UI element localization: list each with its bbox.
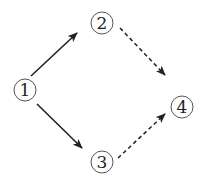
node-3: 3: [91, 151, 113, 173]
node-3-label: 3: [97, 152, 108, 172]
node-4-label: 4: [177, 97, 188, 117]
edge-3-to-4: [118, 114, 165, 158]
flow-diagram: 1 2 3 4: [0, 0, 210, 188]
node-2: 2: [91, 12, 113, 34]
edge-1-to-3: [37, 104, 82, 148]
node-1: 1: [14, 79, 36, 101]
node-2-label: 2: [97, 13, 108, 33]
edge-2-to-4: [120, 28, 165, 75]
node-4: 4: [171, 96, 193, 118]
node-1-label: 1: [20, 80, 31, 100]
edge-1-to-2: [31, 33, 77, 76]
